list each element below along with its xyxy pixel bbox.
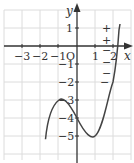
- graph-canvas: y x O −3 −2 −1 1 2 1 −1 −2 −3 −4 −5 + + …: [0, 0, 134, 163]
- y-tick-label: −5: [58, 130, 74, 143]
- x-tick-label: −2: [32, 50, 48, 63]
- y-tick-label: −2: [58, 76, 74, 89]
- sign-mark: −: [100, 76, 109, 89]
- y-tick-label: 1: [66, 22, 73, 35]
- y-axis: [74, 3, 81, 163]
- y-tick-label: −4: [58, 112, 74, 125]
- x-tick-label: −3: [14, 50, 30, 63]
- y-tick-label: −1: [58, 58, 74, 71]
- x-tick-label: 1: [92, 50, 99, 63]
- y-arrow-icon: [74, 3, 81, 12]
- x-axis-label: x: [124, 49, 131, 63]
- y-axis-label: y: [65, 4, 73, 18]
- x-axis: [4, 43, 133, 50]
